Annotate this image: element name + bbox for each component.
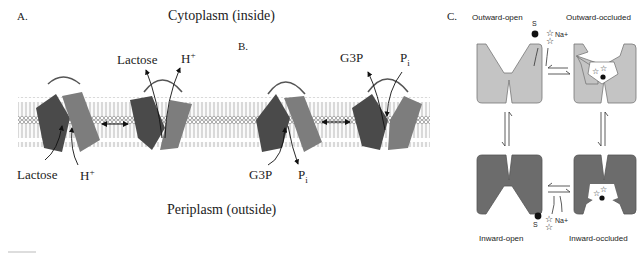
- inward-occluded-state: ☆ ☆: [574, 155, 636, 214]
- substrate-icon-bottom: [535, 213, 542, 220]
- panel-b-label: B.: [238, 40, 248, 52]
- periplasm-label: Periplasm (outside): [167, 202, 276, 218]
- state-outward-open: Outward-open: [472, 13, 523, 22]
- svg-text:☆: ☆: [593, 189, 600, 198]
- substrate-label-bottom: S: [533, 221, 538, 228]
- diagram-canvas: ☆ ☆ ☆ ☆ ☆ ☆ ☆ ☆: [0, 0, 640, 254]
- state-inward-open: Inward-open: [479, 234, 523, 243]
- lacy-transporter-outward: [36, 77, 100, 165]
- cytoplasm-label: Cytoplasm (inside): [168, 8, 275, 24]
- inward-open-state: [477, 155, 542, 214]
- g3p-label-top: G3P: [340, 50, 363, 66]
- sodium-star-icon: ☆: [546, 36, 554, 46]
- svg-text:☆: ☆: [600, 64, 607, 73]
- lactose-label-bottom: Lactose: [17, 167, 57, 183]
- proton-label-bottom: H+: [80, 167, 95, 184]
- substrate-icon-top: [532, 31, 539, 38]
- proton-label-top: H+: [181, 50, 196, 67]
- state-inward-occluded: Inward-occluded: [569, 234, 628, 243]
- outward-occluded-state: ☆ ☆: [574, 44, 636, 103]
- ion-label-bottom: Na+: [555, 217, 568, 224]
- outward-open-state: [477, 44, 542, 103]
- panel-c-label: C.: [447, 10, 457, 22]
- state-outward-occluded: Outward-occluded: [566, 13, 631, 22]
- ion-label-top: Na+: [555, 31, 568, 38]
- svg-text:☆: ☆: [600, 185, 607, 194]
- pi-label-bottom: Pi: [298, 167, 308, 185]
- svg-text:☆: ☆: [592, 67, 599, 76]
- sodium-star-icon: ☆: [545, 222, 553, 232]
- substrate-label-top: S: [532, 20, 537, 27]
- g3p-label-bottom: G3P: [249, 167, 272, 183]
- panel-a-label: A.: [17, 10, 28, 22]
- lactose-label-top: Lactose: [117, 52, 157, 68]
- pi-label-top: Pi: [400, 50, 410, 68]
